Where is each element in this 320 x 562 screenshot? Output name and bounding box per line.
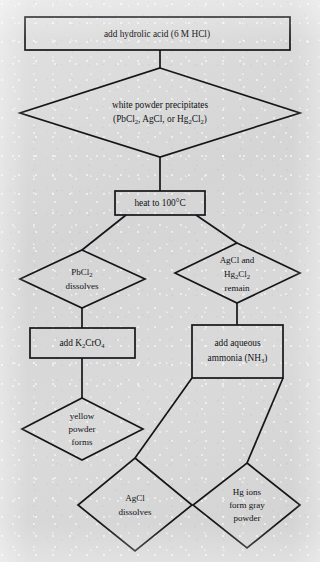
node-add-hcl-label: add hydrolic acid (6 M HCl) bbox=[104, 29, 210, 40]
edge-heat-to-agcl-hg2cl2 bbox=[196, 215, 237, 243]
node-yellow-powder-label-line1: yellow bbox=[70, 411, 95, 421]
node-white-powder[interactable]: white powder precipitates (PbCl2, AgCl, … bbox=[20, 68, 300, 157]
node-pbcl2-dissolves-label-line1: PbCl2 bbox=[71, 267, 92, 278]
node-heat-label: heat to 100°C bbox=[134, 198, 185, 208]
node-add-ammonia-shape bbox=[192, 325, 283, 378]
node-pbcl2-dissolves-label-line2: dissolves bbox=[65, 281, 99, 291]
node-agcl-dissolves-label-line2: dissolves bbox=[118, 507, 152, 517]
node-agcl-hg2cl2-remain-label-line3: remain bbox=[225, 283, 250, 293]
edge-ammonia-to-agcl-dissolves bbox=[135, 378, 192, 458]
node-white-powder-shape bbox=[20, 68, 300, 157]
edge-ammonia-to-hg-powder bbox=[247, 378, 283, 463]
node-add-hcl[interactable]: add hydrolic acid (6 M HCl) bbox=[25, 17, 290, 50]
node-hg-gray-powder-label-line3: powder bbox=[234, 513, 261, 523]
node-yellow-powder-label-line2: powder bbox=[69, 424, 96, 434]
node-agcl-hg2cl2-remain[interactable]: AgCl and Hg2Cl2 remain bbox=[175, 243, 300, 303]
node-add-k2cro4-label: add K2CrO4 bbox=[59, 338, 105, 349]
flowchart-page: add hydrolic acid (6 M HCl) white powder… bbox=[0, 0, 320, 562]
node-agcl-dissolves-label-line1: AgCl bbox=[125, 493, 145, 503]
node-add-ammonia-label-line2: ammonia (NH3) bbox=[208, 353, 268, 364]
node-white-powder-label-line1: white powder precipitates bbox=[112, 100, 208, 110]
node-white-powder-label-line2: (PbCl2, AgCl, or Hg2Cl2) bbox=[113, 114, 207, 125]
node-hg-gray-powder-label-line1: Hg ions bbox=[233, 487, 262, 497]
node-hg-gray-powder[interactable]: Hg ions form gray powder bbox=[193, 463, 300, 548]
node-add-k2cro4[interactable]: add K2CrO4 bbox=[30, 328, 135, 358]
node-yellow-powder-label-line3: forms bbox=[72, 437, 93, 447]
node-pbcl2-dissolves[interactable]: PbCl2 dissolves bbox=[20, 250, 145, 308]
node-yellow-powder[interactable]: yellow powder forms bbox=[22, 398, 143, 460]
node-agcl-hg2cl2-remain-label-line2: Hg2Cl2 bbox=[224, 269, 250, 280]
node-add-ammonia[interactable]: add aqueous ammonia (NH3) bbox=[192, 325, 283, 378]
node-agcl-dissolves-shape bbox=[78, 458, 192, 551]
node-hg-gray-powder-label-line2: form gray bbox=[229, 500, 265, 510]
node-add-ammonia-label-line1: add aqueous bbox=[214, 338, 261, 348]
node-pbcl2-dissolves-shape bbox=[20, 250, 145, 308]
flowchart-canvas: add hydrolic acid (6 M HCl) white powder… bbox=[0, 0, 320, 562]
node-agcl-hg2cl2-remain-label-line1: AgCl and bbox=[220, 255, 255, 265]
edge-heat-to-pbcl2 bbox=[82, 215, 126, 250]
node-agcl-dissolves[interactable]: AgCl dissolves bbox=[78, 458, 192, 551]
node-heat[interactable]: heat to 100°C bbox=[115, 191, 205, 215]
